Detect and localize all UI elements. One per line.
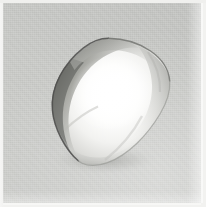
solid-svg bbox=[0, 0, 206, 207]
object-layer bbox=[0, 0, 206, 207]
render-canvas: Shaded 3D rounded solid render bbox=[0, 0, 206, 207]
object-grain bbox=[0, 0, 206, 207]
